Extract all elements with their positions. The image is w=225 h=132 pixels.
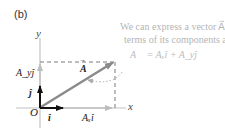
- x-axis-label: x: [128, 101, 133, 112]
- vector-a: [41, 63, 113, 108]
- origin-label: O: [30, 107, 38, 118]
- i-hat-label: î: [48, 113, 51, 123]
- ax-component-label: Aₓî: [82, 113, 94, 123]
- vector-components-diagram: (b) y x O → A A_yĵ ĵ î Aₓî We can expres…: [0, 0, 225, 132]
- j-hat-label: ĵ: [29, 88, 32, 98]
- annotation-line-1: We can express a vector A⃗ in: [120, 22, 225, 32]
- vector-a-label: A: [80, 64, 87, 74]
- ay-component-label: A_yĵ: [16, 68, 34, 78]
- annotation-equation: A⃗ = Aₓî + A_yĵ: [130, 50, 197, 60]
- panel-label: (b): [14, 9, 27, 20]
- annotation-line-2: terms of its components as: [124, 35, 225, 45]
- y-axis-label: y: [36, 28, 41, 39]
